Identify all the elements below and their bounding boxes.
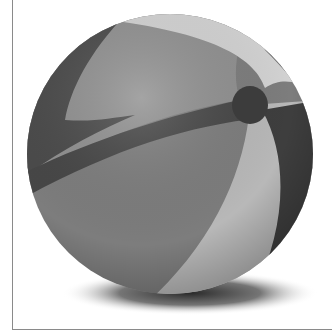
beach-ball-illustration	[0, 0, 332, 334]
valve-cap	[232, 86, 268, 124]
image-frame	[0, 0, 332, 334]
ball-body	[20, 10, 320, 310]
